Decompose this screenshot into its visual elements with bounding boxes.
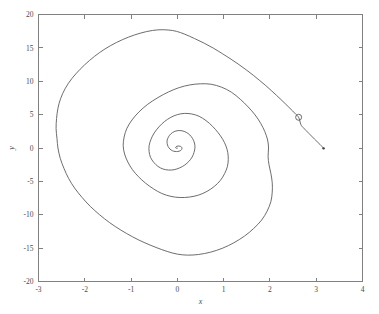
y-tick-label: -15	[24, 244, 34, 253]
x-tick-label: 0	[175, 285, 179, 294]
y-axis-ticks	[39, 15, 363, 282]
x-tick-label: 3	[314, 285, 318, 294]
trajectory-endpoint	[322, 147, 324, 149]
y-tick-label: 20	[26, 10, 34, 19]
x-tick-label: -1	[128, 285, 134, 294]
x-tick-label: 4	[361, 285, 365, 294]
y-tick-label: 0	[30, 144, 34, 153]
trajectory-path	[56, 30, 324, 255]
x-tick-label: 1	[222, 285, 226, 294]
x-tick-label: -2	[82, 285, 88, 294]
x-tick-label: -3	[35, 285, 41, 294]
x-tick-label: 2	[268, 285, 272, 294]
axes-box	[39, 15, 363, 282]
y-axis-label: y	[7, 146, 16, 151]
y-tick-label: 15	[26, 44, 34, 53]
y-tick-label: -20	[24, 277, 34, 286]
x-axis-label: x	[198, 297, 203, 306]
y-tick-label: -5	[27, 177, 33, 186]
y-tick-label: 5	[30, 110, 34, 119]
x-axis-ticks	[39, 15, 363, 282]
x-axis-tick-labels: -3-2-101234	[35, 285, 364, 294]
y-tick-label: 10	[26, 77, 34, 86]
phase-portrait-figure: -3-2-101234 -20-15-10-505101520 x y	[0, 0, 379, 314]
data-series-group	[56, 30, 324, 255]
y-tick-label: -10	[24, 210, 34, 219]
plot-canvas: -3-2-101234 -20-15-10-505101520 x y	[0, 0, 379, 314]
y-axis-tick-labels: -20-15-10-505101520	[24, 10, 34, 286]
